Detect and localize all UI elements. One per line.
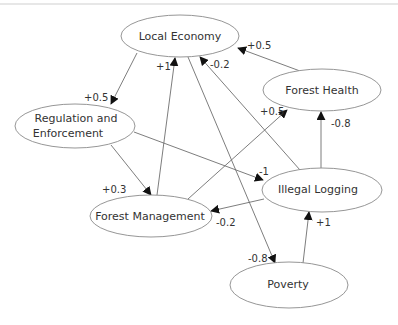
node-shape [15, 104, 135, 148]
edge-forest-management-to-local-economy [157, 58, 175, 195]
weight-forest-management-to-forest-health: +0.5 [260, 106, 284, 117]
node-label: Illegal Logging [278, 183, 358, 196]
weight-local-economy-to-regulation: +0.5 [84, 92, 108, 103]
node-label-line-2: Enforcement [33, 127, 104, 140]
node-regulation-and-enforcement[interactable]: Regulation and Enforcement [15, 104, 135, 148]
edge-local-economy-to-poverty [188, 57, 275, 263]
weight-regulation-to-forest-management: +0.3 [102, 184, 126, 195]
weight-illegal-logging-to-forest-management: -0.2 [216, 217, 236, 228]
edge-forest-health-to-local-economy [238, 48, 300, 71]
causal-loop-diagram: Local Economy Regulation and Enforcement… [0, 0, 398, 325]
node-label: Poverty [267, 278, 309, 291]
edge-illegal-logging-to-forest-management [211, 199, 264, 211]
node-label: Forest Health [285, 84, 358, 97]
weight-regulation-to-illegal-logging: -1 [259, 166, 269, 177]
edge-regulation-to-illegal-logging [134, 132, 263, 180]
edge-local-economy-to-regulation [111, 53, 137, 104]
edge-poverty-to-illegal-logging [303, 212, 309, 263]
weight-forest-health-to-local-economy: +0.5 [247, 40, 271, 51]
node-forest-management[interactable]: Forest Management [90, 195, 212, 237]
node-forest-health[interactable]: Forest Health [263, 69, 381, 111]
node-label-line-1: Regulation and [35, 112, 118, 125]
weight-poverty-to-illegal-logging: +1 [316, 217, 331, 228]
node-illegal-logging[interactable]: Illegal Logging [262, 168, 382, 212]
weight-local-economy-to-poverty: -0.8 [248, 253, 268, 264]
weight-illegal-logging-to-forest-health: -0.8 [331, 118, 351, 129]
node-label: Forest Management [95, 210, 205, 223]
node-local-economy[interactable]: Local Economy [121, 15, 239, 57]
weight-forest-management-to-local-economy: +1 [156, 61, 171, 72]
weight-illegal-logging-to-local-economy: -0.2 [210, 59, 230, 70]
node-label: Local Economy [139, 30, 222, 43]
node-poverty[interactable]: Poverty [230, 262, 348, 308]
